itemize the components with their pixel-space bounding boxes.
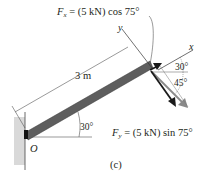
fx-label: Fx = (5 kN) cos 75°	[56, 6, 139, 19]
angle-top-label: 30°	[175, 62, 189, 72]
force-diagram: Fx = (5 kN) cos 75° y x 3 m 30° 45° 30° …	[0, 0, 213, 185]
pin-support	[24, 130, 28, 139]
fy-arrow-shaft	[151, 71, 173, 102]
x-axis-label: x	[188, 41, 194, 52]
y-axis-label: y	[117, 22, 123, 33]
figure-caption: (c)	[110, 159, 122, 171]
fy-arrowhead	[168, 97, 176, 107]
fx-arrowhead	[153, 63, 162, 70]
beam-angle-label: 30°	[80, 122, 94, 132]
y-axis	[122, 29, 152, 68]
fy-label: Fy = (5 kN) sin 75°	[111, 127, 193, 140]
fx-leader-line	[149, 16, 153, 64]
wall-shading	[14, 117, 25, 165]
length-label: 3 m	[75, 70, 91, 81]
angle-force-label: 45°	[174, 78, 188, 88]
origin-label: O	[30, 143, 38, 154]
dimension-line	[15, 47, 128, 112]
